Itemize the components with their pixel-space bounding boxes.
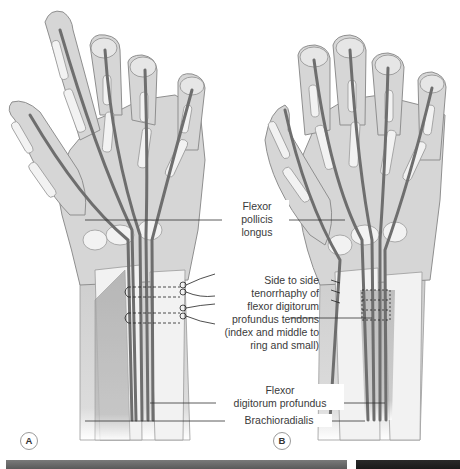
hand-b-illustration — [265, 35, 446, 440]
next-figure-strip-left — [6, 460, 347, 469]
label-flexor-pollicis-longus: Flexor pollicis longus — [225, 200, 289, 239]
label-flexor-digitorum-profundus: Flexor digitorum profundus — [216, 384, 344, 410]
next-figure-strip-right — [356, 460, 460, 469]
panel-label-b: B — [273, 432, 291, 450]
hand-a-illustration — [9, 11, 215, 440]
panel-label-a: A — [20, 432, 38, 450]
label-side-to-side-tenorrhaphy: Side to side tenorrhaphy of flexor digit… — [212, 274, 322, 352]
label-brachioradialis: Brachioradialis — [226, 414, 332, 427]
